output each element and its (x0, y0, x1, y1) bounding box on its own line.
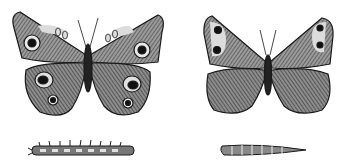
left-forewing (13, 12, 86, 63)
eyespot (48, 95, 58, 105)
eyespot (35, 72, 53, 88)
spiny-caterpillar (28, 140, 134, 155)
body (265, 55, 272, 95)
illustration (0, 0, 350, 168)
eyespot (317, 25, 323, 31)
eyespot (214, 47, 221, 54)
left-hindwing (207, 69, 266, 114)
right-forewing (90, 15, 163, 64)
eyespot (123, 76, 141, 92)
eyespot (123, 98, 133, 108)
eyespot (215, 27, 222, 34)
eyespot (134, 42, 150, 58)
smooth-caterpillar (221, 145, 306, 155)
left-hindwing (25, 63, 86, 115)
body (84, 44, 92, 92)
buckeye-butterfly (13, 12, 163, 115)
right-hindwing (270, 69, 330, 114)
eyespot (317, 42, 323, 48)
right-hindwing (90, 63, 150, 115)
eyespot (24, 35, 40, 51)
wood-nymph-butterfly (204, 16, 333, 113)
